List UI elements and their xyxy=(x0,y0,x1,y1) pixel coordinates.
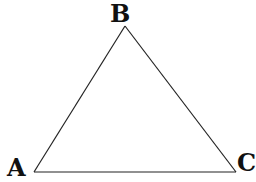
edge-bc xyxy=(125,26,236,172)
vertex-label-a: A xyxy=(7,156,26,180)
vertex-label-b: B xyxy=(110,2,130,26)
edge-ab xyxy=(34,26,125,172)
vertex-label-c: C xyxy=(237,151,256,175)
